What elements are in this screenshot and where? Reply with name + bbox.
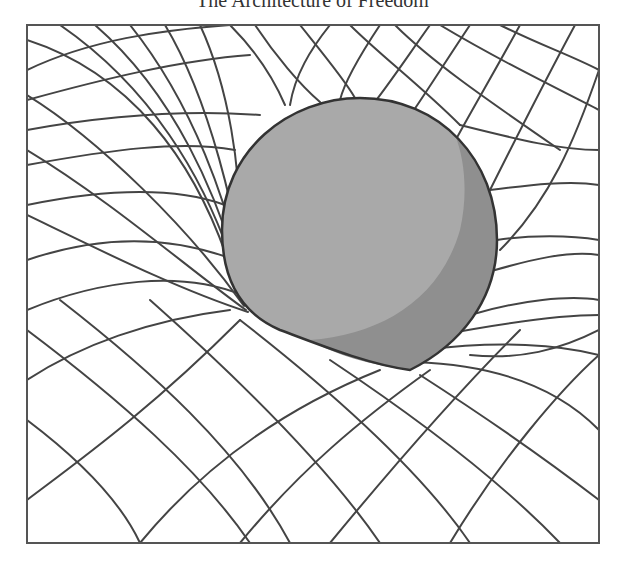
spacetime-curvature-figure — [0, 0, 625, 572]
sphere — [222, 98, 497, 370]
